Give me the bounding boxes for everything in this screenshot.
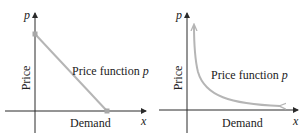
y-axis-variable: p: [23, 8, 30, 22]
x-intercept-point: [105, 109, 110, 114]
demand-diagram: p Price Price function p Demand x p Pric…: [0, 0, 306, 139]
panel-hyperbolic: p Price Price function p Demand x: [159, 8, 299, 133]
x-axis-label: Demand: [222, 116, 263, 130]
price-function-curve: [194, 25, 280, 106]
y-axis-label: Price: [19, 66, 33, 91]
y-axis-label: Price: [171, 66, 185, 91]
x-axis-label: Demand: [70, 116, 111, 130]
y-intercept-point: [33, 32, 38, 37]
panel-linear: p Price Price function p Demand x: [5, 8, 149, 133]
curve-label: Price function p: [211, 68, 288, 82]
x-axis-variable: x: [292, 114, 299, 128]
y-axis-variable: p: [175, 8, 182, 22]
x-axis-variable: x: [140, 114, 147, 128]
curve-label: Price function p: [72, 64, 149, 78]
